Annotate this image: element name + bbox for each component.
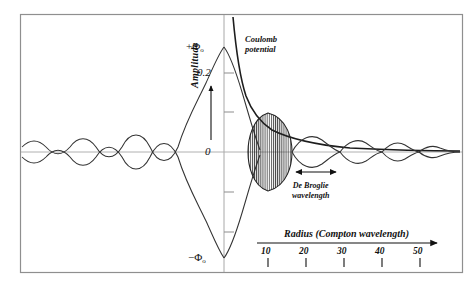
coulomb-potential-label: Coulombpotential [245, 34, 277, 54]
physics-figure [0, 0, 475, 286]
radius-axis-label: Radius (Compton wavelength) [284, 228, 409, 239]
radius-tick-label-20: 20 [299, 246, 309, 256]
amplitude-axis-label: Amplitude [189, 28, 200, 88]
radius-tick-label-10: 10 [261, 246, 271, 256]
y-axis-bottom-label: −Φo [188, 251, 206, 265]
de-broglie-wavelength-label: De Brogliewavelength [292, 181, 329, 200]
radius-tick-label-50: 50 [413, 246, 423, 256]
radius-tick-label-30: 30 [337, 246, 347, 256]
radius-tick-label-40: 40 [375, 246, 385, 256]
y-tick-label-zero: 0 [205, 145, 211, 157]
